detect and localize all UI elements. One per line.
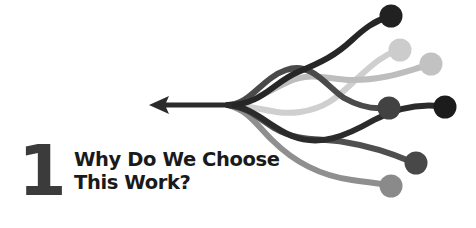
endpoint-dot-mid-dark-center xyxy=(378,97,401,120)
chapter-title-line-1: Why Do We Choose xyxy=(74,148,304,171)
endpoint-dot-mid-dark-lower xyxy=(405,152,428,175)
left-arrow xyxy=(149,96,232,114)
chapter-number: 1 xyxy=(18,138,64,204)
curve-path-mid-dark-center xyxy=(228,68,384,108)
curve-path-darkest-upper xyxy=(228,17,388,105)
endpoint-dot-mid-gray-bottom xyxy=(380,175,403,198)
endpoint-dot-lightest-upper xyxy=(389,39,412,62)
endpoint-dot-darkest-upper xyxy=(380,5,403,28)
endpoint-dot-group xyxy=(378,5,457,198)
chapter-title-line-2: This Work? xyxy=(74,171,304,194)
curve-path-lightest-upper xyxy=(228,51,396,113)
chapter-title: Why Do We Choose This Work? xyxy=(74,148,304,194)
curve-path-light-upper-right xyxy=(228,66,425,105)
arrow-head-icon xyxy=(149,96,169,114)
curve-path-dark-lower-right xyxy=(228,105,440,140)
chapter-opener-page: 1 Why Do We Choose This Work? xyxy=(0,0,476,228)
endpoint-dot-light-upper-right xyxy=(420,53,443,76)
endpoint-dot-dark-lower-right xyxy=(434,96,457,119)
